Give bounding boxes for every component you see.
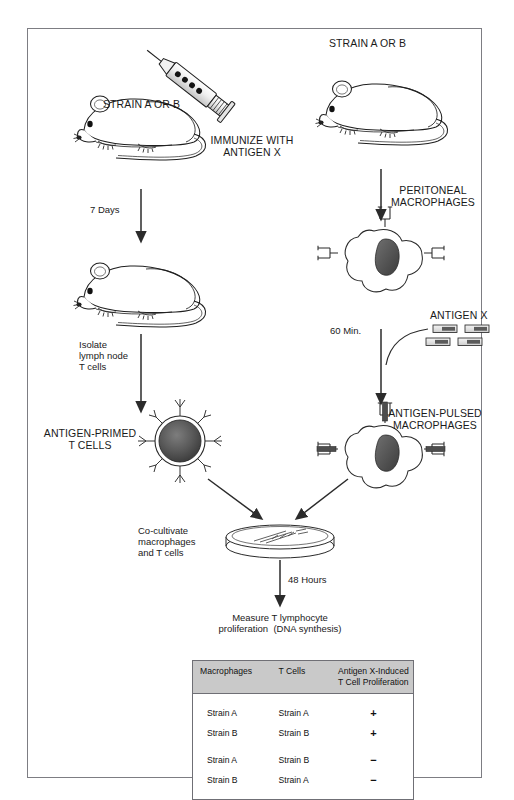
table-spacer	[193, 790, 413, 799]
table-spacer	[193, 743, 413, 750]
cell-macrophages: Strain B	[193, 723, 277, 743]
cocultivate-label: Co-cultivate macrophages and T cells	[138, 525, 196, 559]
cell-t-cells: Strain B	[277, 750, 336, 770]
cell-proliferation: +	[336, 703, 413, 723]
cell-t-cells: Strain A	[277, 703, 336, 723]
table-row: Strain B Strain B +	[193, 723, 413, 743]
cell-macrophages: Strain A	[193, 750, 277, 770]
cell-proliferation: −	[336, 770, 413, 790]
header-t-cells: T Cells	[277, 661, 336, 694]
petri-dish-icon	[226, 525, 334, 558]
table-row: Strain B Strain A −	[193, 770, 413, 790]
antigen-pulsed-label: ANTIGEN-PULSED MACROPHAGES	[383, 407, 487, 432]
cell-t-cells: Strain B	[277, 723, 336, 743]
cell-macrophages: Strain B	[193, 770, 277, 790]
right-strain-label: STRAIN A OR B	[329, 37, 406, 49]
immunize-label: IMMUNIZE WITH ANTIGEN X	[193, 134, 311, 159]
isolate-label: Isolate lymph node T cells	[79, 339, 128, 373]
t-cell-icon	[138, 399, 222, 483]
left-strain-label: STRAIN A OR B	[103, 98, 180, 110]
step-7days-label: 7 Days	[90, 204, 120, 215]
cell-proliferation: +	[336, 723, 413, 743]
table-row: Strain A Strain A +	[193, 703, 413, 723]
table-header-row: Macrophages T Cells Antigen X-Induced T …	[193, 661, 413, 694]
antigen-fragment-icon-group	[426, 325, 489, 346]
antigen-primed-label: ANTIGEN-PRIMED T CELLS	[38, 427, 142, 452]
mouse-icon-donor	[316, 81, 448, 145]
cell-t-cells: Strain A	[277, 770, 336, 790]
macrophage-icon-peritoneal	[318, 207, 444, 292]
diagram-frame: STRAIN A OR B IMMUNIZE WITH ANTIGEN X 7 …	[27, 28, 482, 778]
arrow-icon-mac-to-dish	[300, 479, 348, 516]
mouse-icon-primed	[74, 263, 206, 327]
cell-macrophages: Strain A	[193, 703, 277, 723]
cell-proliferation: −	[336, 750, 413, 770]
measure-label: Measure T lymphocyte proliferation (DNA …	[175, 612, 385, 634]
table-row: Strain A Strain B −	[193, 750, 413, 770]
table-spacer	[193, 694, 413, 704]
header-macrophages: Macrophages	[193, 661, 277, 694]
arrow-icon-tcell-to-dish	[208, 479, 258, 516]
results-table: Macrophages T Cells Antigen X-Induced T …	[192, 660, 414, 800]
peritoneal-macrophages-label: PERITONEAL MACROPHAGES	[385, 184, 481, 209]
step-60min-label: 60 Min.	[330, 325, 361, 336]
step-48hours-label: 48 Hours	[288, 574, 327, 585]
antigen-x-label: ANTIGEN X	[430, 309, 488, 321]
header-proliferation: Antigen X-Induced T Cell Proliferation	[336, 661, 413, 694]
